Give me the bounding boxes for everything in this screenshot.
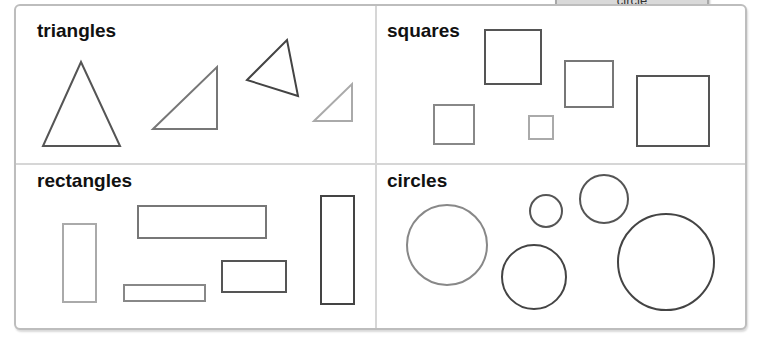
triangle-shape xyxy=(247,40,298,96)
circle-shape xyxy=(580,175,628,223)
shapes-canvas xyxy=(0,0,759,341)
circle-shape xyxy=(502,245,566,309)
triangle-shape xyxy=(153,67,217,129)
circle-shape xyxy=(407,205,487,285)
triangle-shape xyxy=(43,62,120,146)
square-shape xyxy=(485,30,541,84)
rectangle-shape xyxy=(321,196,354,304)
square-shape xyxy=(434,105,474,144)
rectangle-shape xyxy=(63,224,96,302)
rectangle-shape xyxy=(222,261,286,292)
circle-shape xyxy=(530,195,562,227)
rectangle-shape xyxy=(124,285,205,301)
circle-shape xyxy=(618,214,714,310)
triangle-shape xyxy=(314,84,352,121)
square-shape xyxy=(529,116,553,139)
square-shape xyxy=(565,61,613,107)
square-shape xyxy=(637,76,709,146)
rectangle-shape xyxy=(138,206,266,238)
